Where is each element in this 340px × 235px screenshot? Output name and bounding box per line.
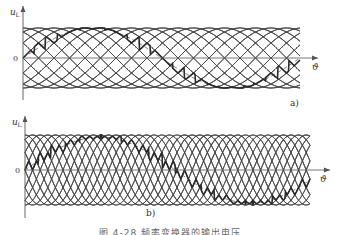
figure-caption: 图 4-28 频率变换器的输出电压 bbox=[0, 226, 340, 235]
x-axis-arrow-icon bbox=[312, 56, 318, 61]
panel-label: a) bbox=[290, 98, 299, 108]
y-axis-label-subscript: L bbox=[18, 121, 22, 128]
zero-label: 0 bbox=[13, 54, 18, 63]
y-axis-arrow-icon bbox=[23, 116, 28, 122]
x-axis-label-theta: ϑ bbox=[312, 62, 319, 72]
zero-label: 0 bbox=[15, 166, 20, 175]
y-axis-label-subscript: L bbox=[16, 11, 20, 18]
x-axis-arrow-icon bbox=[324, 168, 330, 173]
y-axis-arrow-icon bbox=[21, 6, 26, 12]
figure-canvas: uL0ϑa) uL0ϑb) bbox=[0, 0, 340, 235]
panel-label: b) bbox=[146, 208, 155, 218]
panel-a-waveform-plot: uL0ϑa) bbox=[10, 6, 319, 108]
x-axis-label-theta: ϑ bbox=[320, 174, 327, 184]
panel-b-waveform-plot: uL0ϑb) bbox=[12, 116, 330, 218]
